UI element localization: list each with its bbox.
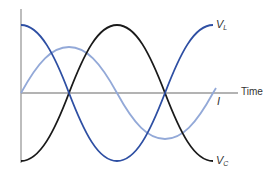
label-time: Time: [241, 87, 263, 97]
label-current: I: [217, 96, 220, 107]
label-vc-sub: C: [223, 160, 228, 167]
label-vl: VL: [216, 19, 227, 31]
label-vc: VC: [216, 155, 228, 167]
ac-phase-diagram: [0, 0, 274, 183]
label-vl-sub: L: [223, 24, 227, 31]
